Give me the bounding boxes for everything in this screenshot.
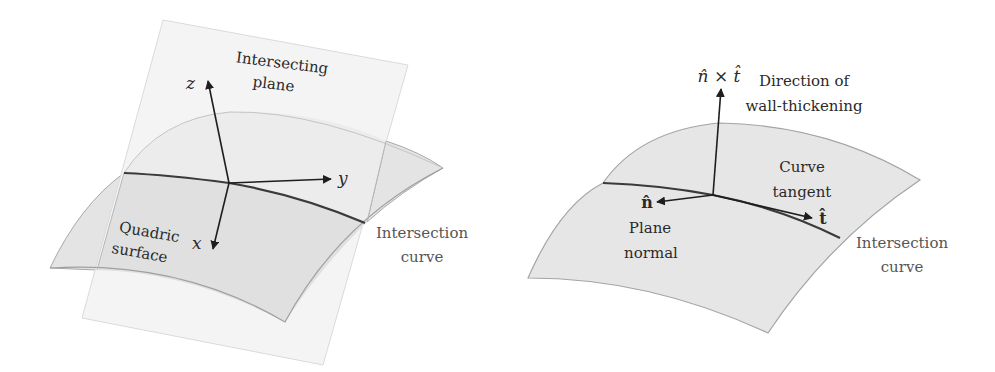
y-axis-label: y — [337, 168, 348, 188]
normal-label-line1: Plane — [629, 219, 671, 237]
left-curve-label-line1: Intersection — [376, 224, 468, 242]
normal-label-line2: normal — [624, 244, 678, 262]
right-panel: n̂ × t̂ Direction of wall-thickening Cur… — [528, 65, 948, 333]
thickening-label-line2: wall-thickening — [745, 97, 862, 115]
z-axis-label: z — [185, 73, 196, 93]
tangent-label-line2: tangent — [773, 183, 832, 201]
quadric-surface — [528, 123, 920, 333]
left-curve-label-line2: curve — [401, 248, 444, 266]
cross-product-label: n̂ × t̂ — [698, 65, 741, 86]
figure-canvas: z y x Intersecting plane Quadric surface… — [0, 0, 995, 372]
tangent-symbol: t̂ — [819, 208, 827, 228]
thickening-label-line1: Direction of — [759, 72, 851, 90]
left-panel: z y x Intersecting plane Quadric surface… — [50, 20, 468, 365]
tangent-label-line1: Curve — [779, 158, 825, 176]
x-axis-label: x — [192, 233, 202, 253]
right-curve-label-line2: curve — [881, 258, 924, 276]
right-curve-label-line1: Intersection — [856, 234, 948, 252]
normal-symbol: n̂ — [641, 193, 653, 212]
